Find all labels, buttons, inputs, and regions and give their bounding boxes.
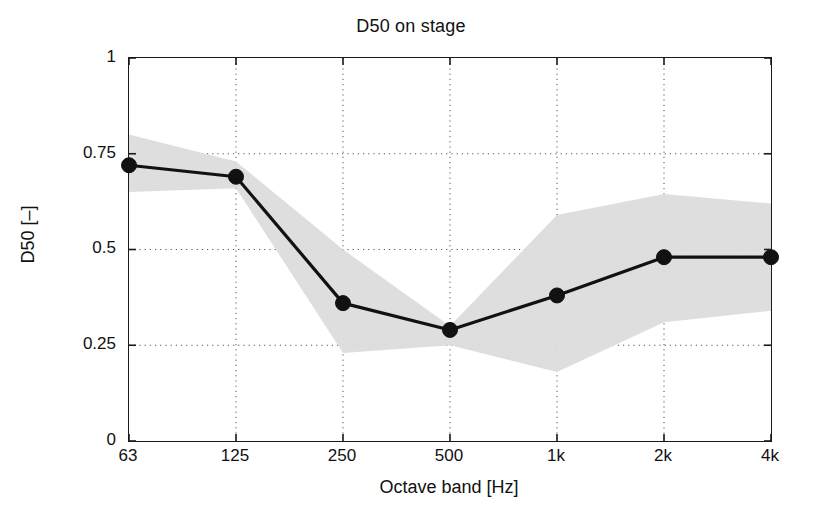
data-point-marker bbox=[657, 250, 672, 265]
y-tick-label-0: 0 bbox=[107, 430, 116, 450]
y-tick-label-1: 0.25 bbox=[83, 334, 116, 354]
data-point-marker bbox=[443, 322, 458, 337]
chart-figure: D50 on stage 0 0.25 0.5 0.75 1 63 125 25… bbox=[0, 0, 822, 515]
x-tick-label-2k: 2k bbox=[654, 446, 672, 466]
x-tick-label-4k: 4k bbox=[761, 446, 779, 466]
x-tick-label-250: 250 bbox=[328, 446, 356, 466]
data-point-marker bbox=[122, 158, 137, 173]
x-tick-label-125: 125 bbox=[221, 446, 249, 466]
y-axis-label: D50 [–] bbox=[18, 155, 39, 315]
x-tick-label-1k: 1k bbox=[547, 446, 565, 466]
x-axis-label: Octave band [Hz] bbox=[128, 477, 770, 498]
x-tick-label-63: 63 bbox=[119, 446, 138, 466]
data-point-marker bbox=[550, 288, 565, 303]
data-point-marker bbox=[229, 169, 244, 184]
plot-area bbox=[128, 57, 772, 442]
data-point-marker bbox=[764, 250, 779, 265]
y-tick-label-2: 0.5 bbox=[92, 238, 116, 258]
data-point-marker bbox=[336, 296, 351, 311]
y-tick-label-3: 0.75 bbox=[83, 143, 116, 163]
page-title: D50 on stage bbox=[0, 16, 822, 37]
plot-svg bbox=[129, 58, 771, 441]
x-tick-label-500: 500 bbox=[435, 446, 463, 466]
y-tick-label-4: 1 bbox=[107, 47, 116, 67]
